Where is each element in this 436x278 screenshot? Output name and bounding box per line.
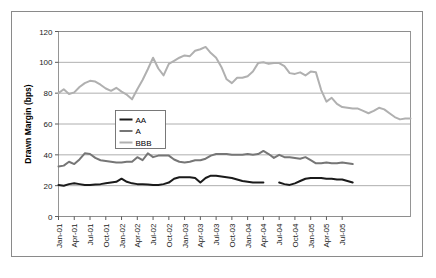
y-tick-label: 0 <box>48 213 53 222</box>
y-tick-label: 40 <box>44 151 53 160</box>
y-axis-title: Drawn Margin (bps) <box>23 84 33 164</box>
y-tick-label: 120 <box>39 28 53 37</box>
x-tick-label: Jan-02 <box>118 223 127 248</box>
plot-wrapper: 020406080100120 Jan-01Apr-01Jul-01Oct-01… <box>0 0 436 278</box>
x-tick-label: Apr-05 <box>322 223 331 248</box>
x-tick-label: Jul-04 <box>275 223 284 245</box>
y-tick-label: 100 <box>39 58 53 67</box>
x-tick-label: Jan-01 <box>55 223 64 248</box>
x-tick-label: Apr-01 <box>70 223 79 248</box>
gridlines <box>59 32 411 217</box>
line-chart: 020406080100120 Jan-01Apr-01Jul-01Oct-01… <box>0 0 436 278</box>
y-axis-title-text: Drawn Margin (bps) <box>23 84 33 164</box>
series-line-a <box>59 151 353 166</box>
y-tick-label: 20 <box>44 182 53 191</box>
legend-label-aa: AA <box>136 116 147 125</box>
x-tick-label: Oct-04 <box>291 223 300 248</box>
series-line-aa <box>59 176 353 186</box>
x-tick-label: Jul-01 <box>86 223 95 245</box>
x-tick-label: Oct-03 <box>228 223 237 248</box>
legend-label-a: A <box>136 127 142 136</box>
x-tick-label: Apr-03 <box>196 223 205 248</box>
series-line-bbb <box>59 47 411 119</box>
x-tick-label: Jul-03 <box>212 223 221 245</box>
x-tick-label: Jul-02 <box>149 223 158 245</box>
x-tick-label: Oct-01 <box>102 223 111 248</box>
y-tick-label: 60 <box>44 120 53 129</box>
y-axis-ticks: 020406080100120 <box>39 28 58 222</box>
x-tick-label: Jul-05 <box>338 223 347 245</box>
chart-figure: 020406080100120 Jan-01Apr-01Jul-01Oct-01… <box>0 0 436 278</box>
data-series-group <box>59 47 411 186</box>
x-axis-ticks: Jan-01Apr-01Jul-01Oct-01Jan-02Apr-02Jul-… <box>55 217 348 248</box>
y-tick-label: 80 <box>44 89 53 98</box>
x-tick-label: Apr-02 <box>133 223 142 248</box>
x-tick-label: Jan-05 <box>307 223 316 248</box>
chart-legend[interactable]: AAABBB <box>116 111 166 149</box>
x-tick-label: Oct-02 <box>165 223 174 248</box>
x-tick-label: Jan-03 <box>181 223 190 248</box>
legend-label-bbb: BBB <box>136 139 152 148</box>
x-tick-label: Apr-04 <box>259 223 268 248</box>
x-tick-label: Jan-04 <box>244 223 253 248</box>
